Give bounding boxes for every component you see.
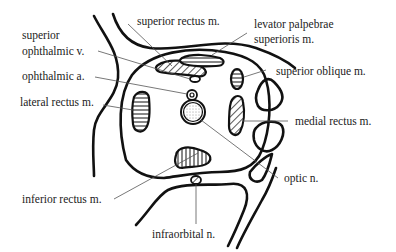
ethmoid-lower	[250, 154, 272, 182]
optic-nerve	[184, 103, 203, 122]
ophthalmic-artery-inner	[190, 93, 194, 97]
orbit-diagram: superior rectus m. levator palpebrae sup…	[0, 0, 396, 252]
lateral-rectus-muscle	[132, 92, 149, 132]
label-levator-line2: superioris m.	[254, 33, 314, 46]
label-superior-oblique: superior oblique m.	[276, 65, 366, 78]
label-optic-n: optic n.	[284, 172, 319, 185]
inferior-rectus-muscle	[175, 147, 210, 168]
label-sup-ophth-v-line2: ophthalmic v.	[22, 45, 85, 58]
label-medial-rectus: medial rectus m.	[295, 115, 371, 127]
superior-ophthalmic-vein	[190, 76, 200, 82]
label-ophthalmic-a: ophthalmic a.	[22, 70, 85, 83]
label-inferior-rectus: inferior rectus m.	[22, 193, 102, 205]
lateral-bone-outline	[93, 16, 118, 176]
medial-rectus-muscle	[229, 96, 244, 135]
label-superior-rectus: superior rectus m.	[137, 15, 220, 28]
leader-lateral-rectus	[103, 105, 133, 110]
optic-canal-outline	[237, 168, 276, 248]
label-infraorbital-n: infraorbital n.	[152, 228, 215, 240]
superior-oblique-muscle	[231, 69, 243, 89]
label-sup-ophth-v-line1: superior	[22, 29, 60, 42]
label-lateral-rectus: lateral rectus m.	[20, 96, 94, 108]
levator-muscle	[180, 55, 224, 66]
infraorbital-nerve	[191, 176, 201, 184]
label-levator-line1: levator palpebrae	[254, 18, 334, 31]
